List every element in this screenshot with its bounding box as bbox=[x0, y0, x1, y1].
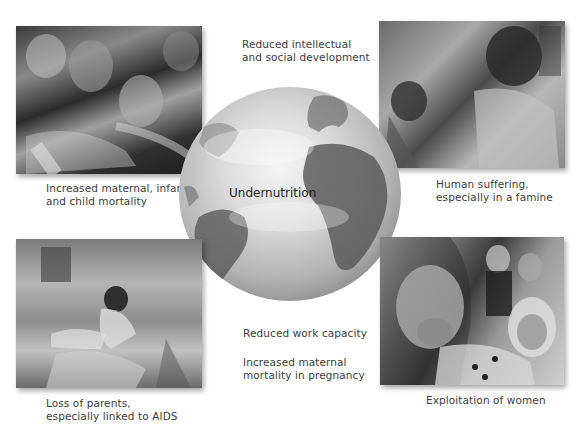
caption-line: Loss of parents, bbox=[46, 397, 178, 410]
photo-crowd-reaching-for-food bbox=[16, 26, 202, 174]
caption-line: Increased maternal, infant, bbox=[46, 182, 191, 195]
caption-line: Reduced intellectual bbox=[242, 38, 370, 51]
caption-line: Increased maternal bbox=[243, 356, 365, 369]
caption-line: and social development bbox=[242, 51, 370, 64]
caption-line: mortality in pregnancy bbox=[243, 369, 365, 382]
photo-child-in-rubble bbox=[16, 239, 202, 388]
caption-intellectual-social-development: Reduced intellectual and social developm… bbox=[242, 38, 370, 64]
center-label-undernutrition: Undernutrition bbox=[229, 186, 316, 200]
caption-line: Human suffering, bbox=[436, 178, 553, 191]
caption-reduced-work-capacity: Reduced work capacity bbox=[243, 327, 367, 340]
caption-line: especially linked to AIDS bbox=[46, 410, 178, 423]
caption-line: Reduced work capacity bbox=[243, 327, 367, 340]
photo-woman-icon bbox=[380, 237, 564, 385]
caption-maternal-infant-child-mortality: Increased maternal, infant, and child mo… bbox=[46, 182, 191, 208]
photo-crowd-icon bbox=[16, 26, 202, 174]
caption-line: especially in a famine bbox=[436, 191, 553, 204]
caption-exploitation-of-women: Exploitation of women bbox=[426, 394, 546, 407]
photo-children-in-famine bbox=[379, 21, 565, 168]
caption-maternal-mortality-pregnancy: Increased maternal mortality in pregnanc… bbox=[243, 356, 365, 382]
photo-children-icon bbox=[379, 21, 565, 168]
photo-crying-woman bbox=[380, 237, 564, 385]
photo-rubble-icon bbox=[16, 239, 202, 388]
caption-human-suffering-famine: Human suffering, especially in a famine bbox=[436, 178, 553, 204]
caption-line: and child mortality bbox=[46, 195, 191, 208]
caption-loss-of-parents-aids: Loss of parents, especially linked to AI… bbox=[46, 397, 178, 423]
caption-line: Exploitation of women bbox=[426, 394, 546, 407]
